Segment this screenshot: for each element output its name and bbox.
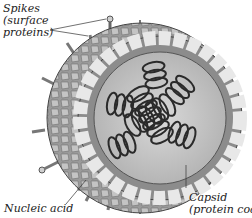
virus-diagram: Spikes (surface proteins) Nucleic acid C… xyxy=(0,0,252,218)
label-nucleic-acid-line1: Nucleic acid xyxy=(4,203,73,215)
label-capsid: Capsid (protein coat) xyxy=(189,192,252,216)
label-capsid-line2: (protein coat) xyxy=(189,204,252,216)
label-nucleic-acid: Nucleic acid xyxy=(4,203,73,215)
label-spikes-line3: proteins) xyxy=(3,27,53,39)
label-spikes: Spikes (surface proteins) xyxy=(3,3,53,39)
